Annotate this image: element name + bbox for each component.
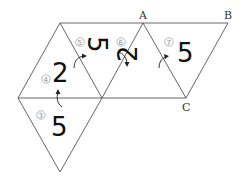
step-6-number: 6 (119, 39, 124, 47)
glyph-step-6: 2 (113, 45, 143, 62)
step-3: 3 5 (37, 111, 68, 142)
step-7: 7 5 (165, 38, 194, 68)
step-3-number: 3 (39, 112, 43, 120)
step-7-number: 7 (167, 39, 171, 47)
step-6: 6 2 (113, 38, 143, 62)
vertex-label-b: B (224, 9, 232, 22)
step-4-number: 4 (44, 76, 49, 84)
triangle-net-diagram: A B C 3 5 4 2 5 5 6 2 (0, 0, 243, 181)
glyph-step-5: 5 (82, 36, 112, 53)
step-5: 5 5 (76, 36, 112, 53)
arrow-4-to-5 (74, 54, 87, 69)
glyph-step-4: 2 (52, 58, 69, 88)
step-4: 4 2 (42, 58, 69, 88)
vertex-label-a: A (138, 9, 148, 22)
step-5-number: 5 (78, 39, 82, 47)
glyph-step-7: 5 (177, 38, 194, 68)
vertex-label-c: C (182, 101, 190, 114)
glyph-step-3: 5 (51, 112, 68, 142)
